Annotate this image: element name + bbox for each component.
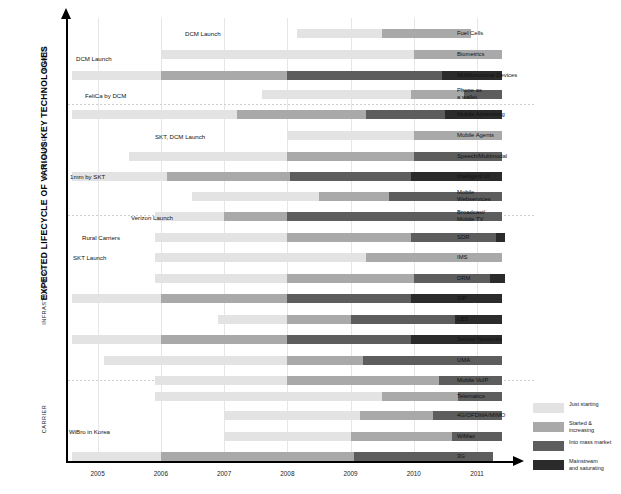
- bar-row: [161, 50, 502, 59]
- legend-label: Started & increasing: [569, 420, 621, 434]
- series-label: WiMax: [457, 433, 475, 440]
- bar-segment-stage-0: [155, 376, 288, 385]
- bar-segment-stage-0: [72, 335, 161, 344]
- legend-label: Mainstream and saturating: [569, 458, 621, 472]
- bar-row: [155, 233, 506, 242]
- annotation: WiBro in Korea: [69, 428, 110, 435]
- series-label: 3G: [457, 453, 465, 460]
- bar-segment-stage-1: [351, 432, 452, 441]
- bar-segment-stage-1: [161, 335, 287, 344]
- series-label: Multifunctional Devices: [457, 72, 517, 79]
- series-label: Speech/Multimodal: [457, 153, 507, 160]
- legend-label: Into mass market: [569, 439, 621, 446]
- bar-segment-stage-2: [366, 110, 445, 119]
- annotation: SKT Launch: [73, 254, 106, 261]
- x-tick-2011: 2011: [457, 470, 497, 477]
- chart-canvas: EXPECTED LIFECYCLE OF VARIOUS KEY TECHNO…: [0, 0, 621, 494]
- bar-segment-stage-0: [224, 432, 350, 441]
- bar-segment-stage-3: [490, 274, 506, 283]
- bar-row: [72, 71, 502, 80]
- bar-row: [155, 392, 503, 401]
- annotation: SKT, DCM Launch: [155, 133, 205, 140]
- bar-segment-stage-0: [155, 233, 288, 242]
- x-axis-line: [66, 461, 515, 463]
- bar-segment-stage-0: [129, 152, 287, 161]
- annotation: DCM Launch: [76, 55, 112, 62]
- bar-segment-stage-1: [366, 253, 502, 262]
- annotation: Rural Carriers: [82, 234, 120, 241]
- y-axis-line: [66, 16, 68, 462]
- annotation: DCM Launch: [185, 30, 221, 37]
- legend-swatch: [533, 403, 564, 413]
- bar-segment-stage-1: [382, 392, 458, 401]
- group-label-carrier: CARRIER: [41, 359, 47, 479]
- bar-segment-stage-1: [287, 356, 363, 365]
- bar-row: [72, 172, 502, 181]
- legend-swatch: [533, 441, 564, 451]
- bar-segment-stage-1: [161, 71, 287, 80]
- bar-segment-stage-2: [414, 274, 490, 283]
- bar-segment-stage-0: [161, 50, 414, 59]
- bar-segment-stage-0: [224, 411, 360, 420]
- bar-row: [104, 356, 502, 365]
- bar-row: [72, 452, 493, 461]
- x-tick-2006: 2006: [141, 470, 181, 477]
- x-tick-2009: 2009: [331, 470, 371, 477]
- series-label: Sensor Networks: [457, 336, 502, 343]
- bar-segment-stage-1: [287, 376, 439, 385]
- x-tick-2010: 2010: [394, 470, 434, 477]
- series-label: SIP: [457, 295, 467, 302]
- bar-row: [155, 253, 503, 262]
- bar-segment-stage-2: [290, 172, 410, 181]
- bar-segment-stage-1: [167, 172, 290, 181]
- bar-row: [129, 152, 502, 161]
- bar-row: [297, 29, 471, 38]
- bar-segment-stage-0: [297, 29, 382, 38]
- bar-segment-stage-1: [237, 110, 367, 119]
- series-label: Broadcast/ Mobile TV: [457, 209, 485, 223]
- bar-row: [155, 212, 503, 221]
- bar-segment-stage-1: [319, 192, 389, 201]
- legend-label: Just starting: [569, 401, 621, 408]
- bar-segment-stage-0: [155, 392, 383, 401]
- x-tick-2007: 2007: [204, 470, 244, 477]
- series-label: Mobile Agents: [457, 132, 494, 139]
- bar-segment-stage-1: [287, 152, 413, 161]
- bar-segment-stage-3: [496, 233, 505, 242]
- bar-segment-stage-0: [192, 192, 318, 201]
- bar-segment-stage-0: [72, 294, 161, 303]
- bar-segment-stage-1: [161, 452, 354, 461]
- x-axis-arrow: [513, 456, 524, 466]
- bar-segment-stage-1: [287, 315, 350, 324]
- x-tick-2005: 2005: [78, 470, 118, 477]
- bar-segment-stage-1: [360, 411, 433, 420]
- bar-segment-stage-1: [287, 274, 413, 283]
- series-label: SDR: [457, 234, 469, 241]
- annotation: 1mm by SKT: [70, 173, 105, 180]
- group-label-middleware: MIDDLEWARE: [41, 98, 47, 218]
- bar-row: [155, 274, 506, 283]
- series-label: LBS: [457, 316, 468, 323]
- bar-segment-stage-1: [161, 294, 287, 303]
- legend-swatch: [533, 422, 564, 432]
- bar-segment-stage-0: [155, 253, 367, 262]
- bar-segment-stage-0: [72, 452, 161, 461]
- series-label: 4G/OFDMA/MIMO: [457, 412, 505, 419]
- bar-segment-stage-0: [72, 110, 236, 119]
- x-tick-2008: 2008: [267, 470, 307, 477]
- bar-segment-stage-2: [287, 71, 442, 80]
- bar-segment-stage-2: [351, 315, 455, 324]
- bar-segment-stage-2: [287, 294, 410, 303]
- bar-segment-stage-0: [287, 131, 413, 140]
- bar-segment-stage-1: [287, 233, 410, 242]
- series-label: Mobile Advertising: [457, 111, 505, 118]
- series-label: DRM: [457, 275, 470, 282]
- bar-row: [72, 335, 502, 344]
- bar-segment-stage-0: [262, 90, 411, 99]
- bar-segment-stage-1: [224, 212, 287, 221]
- series-label: Mobile VoIP: [457, 377, 488, 384]
- bar-row: [155, 376, 503, 385]
- bar-segment-stage-2: [287, 335, 410, 344]
- bar-segment-stage-2: [363, 356, 502, 365]
- bar-row: [72, 294, 502, 303]
